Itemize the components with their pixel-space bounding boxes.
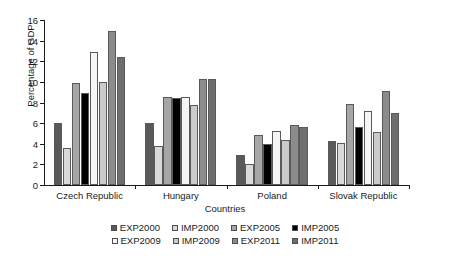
legend-label: IMP2011 (301, 236, 338, 246)
x-tick-mark (318, 185, 319, 189)
x-group-label: Slovak Republic (318, 190, 409, 201)
bar-imp2009 (99, 82, 107, 185)
bar-exp2000 (328, 141, 336, 185)
bar-chart: Percentage of GDP 0246810121416 Czech Re… (0, 0, 450, 268)
bar-group: Poland (227, 20, 318, 185)
bar-exp2005 (254, 135, 262, 185)
bar-exp2011 (108, 31, 116, 185)
legend-swatch-icon (231, 225, 237, 231)
bar-group: Slovak Republic (318, 20, 409, 185)
x-group-label: Czech Republic (44, 190, 135, 201)
x-tick-mark (227, 185, 228, 189)
bar-exp2000 (54, 123, 62, 185)
x-group-label: Hungary (135, 190, 226, 201)
legend-label: IMP2000 (181, 223, 219, 233)
bar-imp2011 (391, 113, 399, 185)
x-axis-title: Countries (0, 203, 450, 214)
bar-exp2009 (181, 97, 189, 185)
bar-exp2011 (382, 91, 390, 185)
x-tick-mark (135, 185, 136, 189)
bar-imp2000 (245, 164, 253, 185)
plot-area: 0246810121416 Czech RepublicHungaryPolan… (44, 20, 409, 185)
bar-exp2011 (290, 125, 298, 185)
bar-imp2005 (355, 127, 363, 185)
bar-imp2000 (154, 146, 162, 185)
legend-item-exp2005[interactable]: EXP2005 (231, 223, 280, 233)
legend-row-top: EXP2000IMP2000EXP2005IMP2005 (0, 221, 450, 234)
bar-imp2000 (63, 148, 71, 185)
y-tick-label: 4 (10, 140, 38, 150)
bar-imp2011 (299, 127, 307, 185)
y-tick-label: 10 (10, 78, 38, 88)
legend-swatch-icon (112, 238, 118, 244)
legend-item-imp2011[interactable]: IMP2011 (292, 236, 338, 246)
x-tick-mark (409, 185, 410, 189)
legend-label: EXP2009 (121, 236, 161, 246)
legend-label: IMP2005 (301, 223, 339, 233)
legend-swatch-icon (292, 225, 298, 231)
legend-swatch-icon (111, 225, 117, 231)
y-tick-label: 12 (10, 57, 38, 67)
y-tick-label: 16 (10, 16, 38, 26)
bar-exp2005 (72, 83, 80, 185)
y-tick-mark (40, 185, 44, 186)
legend-swatch-icon (173, 238, 179, 244)
x-group-label: Poland (227, 190, 318, 201)
bar-exp2005 (346, 104, 354, 185)
bar-imp2005 (172, 98, 180, 185)
legend-row-bottom: EXP2009IMP2009EXP2011IMP2011 (0, 234, 450, 247)
bar-imp2011 (208, 79, 216, 185)
y-tick-label: 14 (10, 37, 38, 47)
legend-item-imp2000[interactable]: IMP2000 (172, 223, 219, 233)
bar-exp2000 (145, 123, 153, 185)
bar-group: Hungary (135, 20, 226, 185)
bar-exp2011 (199, 79, 207, 185)
legend-item-exp2009[interactable]: EXP2009 (112, 236, 161, 246)
legend-item-imp2009[interactable]: IMP2009 (173, 236, 220, 246)
legend-swatch-icon (292, 238, 298, 244)
bar-exp2009 (272, 131, 280, 185)
legend-label: EXP2000 (120, 223, 160, 233)
y-tick-label: 8 (10, 99, 38, 109)
bar-exp2009 (90, 52, 98, 185)
bar-imp2005 (263, 144, 271, 185)
bar-exp2000 (236, 155, 244, 185)
bar-imp2005 (81, 93, 89, 185)
bar-imp2011 (117, 57, 125, 185)
bar-imp2009 (190, 105, 198, 185)
legend: EXP2000IMP2000EXP2005IMP2005 EXP2009IMP2… (0, 221, 450, 247)
y-tick-label: 6 (10, 119, 38, 129)
bar-imp2009 (373, 132, 381, 185)
bar-imp2000 (337, 143, 345, 185)
legend-swatch-icon (232, 238, 238, 244)
legend-label: IMP2009 (182, 236, 220, 246)
bar-exp2009 (364, 111, 372, 185)
y-tick-label: 0 (10, 181, 38, 191)
legend-item-exp2000[interactable]: EXP2000 (111, 223, 160, 233)
bar-imp2009 (281, 140, 289, 185)
bar-exp2005 (163, 97, 171, 185)
bar-group: Czech Republic (44, 20, 135, 185)
legend-item-imp2005[interactable]: IMP2005 (292, 223, 339, 233)
legend-swatch-icon (172, 225, 178, 231)
legend-label: EXP2011 (241, 236, 280, 246)
legend-item-exp2011[interactable]: EXP2011 (232, 236, 280, 246)
y-tick-label: 2 (10, 160, 38, 170)
legend-label: EXP2005 (240, 223, 280, 233)
